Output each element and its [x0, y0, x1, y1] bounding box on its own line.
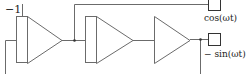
feedback-wire	[6, 41, 17, 75]
scope-neg-sin-box	[209, 34, 221, 46]
amplifier-triangle	[155, 17, 191, 64]
junction-dot-1	[73, 39, 76, 42]
integrator-1-body	[17, 17, 28, 63]
cos-output-label: cos(ωt)	[204, 14, 237, 23]
scope-cos-box	[209, 0, 221, 11]
junction-dot-2	[199, 38, 202, 41]
integrator-2-body	[86, 17, 97, 63]
wire-to-cos	[75, 5, 209, 41]
integrator-2-triangle	[97, 17, 134, 64]
integrator-1-triangle	[28, 17, 63, 64]
block-diagram	[0, 0, 246, 74]
neg-sin-output-label: − sin(ωt)	[204, 50, 246, 59]
gain-input-label: −1	[5, 4, 21, 15]
